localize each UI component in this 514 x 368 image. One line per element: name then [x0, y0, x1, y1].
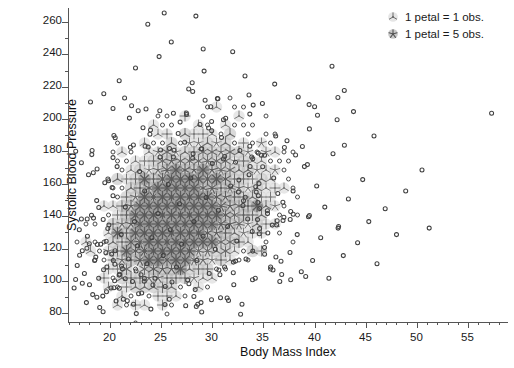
legend-item-1-petal-1-obs: 1 petal = 1 obs. [386, 9, 484, 25]
data-point [356, 241, 360, 245]
data-point [330, 64, 334, 68]
data-point [295, 233, 299, 237]
legend-label: 1 petal = 5 obs. [405, 28, 484, 40]
data-point [187, 87, 191, 91]
data-point [82, 271, 86, 275]
data-point [288, 250, 292, 254]
data-point [232, 283, 236, 287]
data-point [162, 11, 166, 15]
data-point [361, 178, 365, 182]
data-point [278, 280, 282, 284]
data-point [72, 286, 76, 290]
data-point [202, 69, 206, 73]
legend-item-1-petal-5-obs: 1 petal = 5 obs. [386, 26, 484, 42]
data-point [84, 301, 88, 305]
data-point [157, 55, 161, 59]
data-point [296, 95, 300, 99]
data-point [383, 207, 387, 211]
data-point [171, 111, 175, 115]
data-point [184, 304, 188, 308]
data-point [372, 134, 376, 138]
data-point [146, 22, 150, 26]
data-point [87, 173, 91, 177]
data-point [273, 82, 277, 86]
data-point [75, 263, 79, 267]
data-point [404, 189, 408, 193]
data-point [281, 200, 285, 204]
data-point [327, 276, 331, 280]
data-point [319, 236, 323, 240]
sunflower-5-petal-icon [386, 27, 400, 41]
data-point [346, 197, 350, 201]
data-point [134, 66, 138, 70]
data-points-layer [0, 0, 514, 368]
data-point [89, 100, 93, 104]
data-point [323, 205, 327, 209]
data-point [375, 262, 379, 266]
data-point [149, 307, 153, 311]
data-point [367, 220, 371, 224]
data-point [98, 305, 102, 309]
sunflower-1-petal-icon [386, 10, 400, 24]
data-point [80, 249, 84, 253]
data-point [260, 102, 264, 106]
data-point [331, 152, 335, 156]
data-point [95, 199, 99, 203]
data-point [420, 168, 424, 172]
data-point [313, 105, 317, 109]
data-point [311, 259, 315, 263]
data-point [219, 296, 223, 300]
data-point [342, 89, 346, 93]
data-point [240, 302, 244, 306]
data-point [194, 14, 198, 18]
data-point [395, 233, 399, 237]
data-point [111, 194, 115, 198]
data-point [115, 165, 119, 169]
data-point [102, 92, 106, 96]
data-point [77, 228, 81, 232]
data-point [352, 110, 356, 114]
data-point [285, 139, 289, 143]
data-point [341, 254, 345, 258]
data-point [101, 294, 105, 298]
sunflower-scatter-plot: Systolic Blood Pressure 8010012014016018… [0, 0, 514, 368]
data-point [251, 103, 255, 107]
data-point [127, 116, 131, 120]
data-point [88, 283, 92, 287]
data-point [117, 79, 121, 83]
legend: 1 petal = 1 obs. 1 petal = 5 obs. [386, 9, 484, 43]
data-point [111, 106, 115, 110]
data-point [169, 40, 173, 44]
data-point [148, 132, 152, 136]
data-point [315, 184, 319, 188]
data-point [299, 270, 303, 274]
data-point [231, 50, 235, 54]
legend-label: 1 petal = 1 obs. [405, 11, 484, 23]
data-point [243, 74, 247, 78]
data-point [427, 226, 431, 230]
data-point [490, 111, 494, 115]
